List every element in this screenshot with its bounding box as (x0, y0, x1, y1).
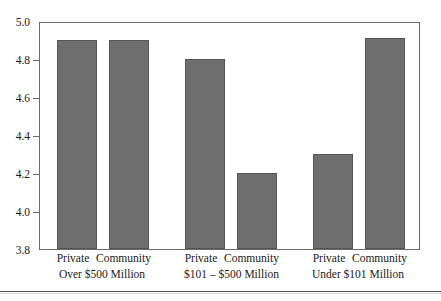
x-axis-group-title: Over $500 Million (56, 266, 148, 282)
bar (365, 38, 405, 249)
x-axis-group: PrivateCommunity$101 – $500 Million (184, 250, 276, 282)
x-axis-category-label: Community (96, 250, 148, 266)
y-axis-tick-label: 5.0 (16, 16, 30, 28)
plot-area (39, 22, 420, 250)
bar-chart-figure: 5.04.84.64.44.24.03.8 PrivateCommunityOv… (0, 0, 441, 301)
x-axis-group: PrivateCommunityUnder $101 Million (312, 250, 404, 282)
bottom-rule (0, 291, 441, 292)
x-axis-group-title: $101 – $500 Million (184, 266, 276, 282)
y-axis-tick-label: 4.0 (16, 206, 30, 218)
y-axis-tick-label: 4.2 (16, 168, 30, 180)
bar (109, 40, 149, 249)
y-axis-tick-label: 4.8 (16, 54, 30, 66)
x-axis-category-label: Private (178, 250, 224, 266)
x-axis-category-row: PrivateCommunity (184, 250, 276, 266)
x-axis: PrivateCommunityOver $500 MillionPrivate… (39, 250, 420, 295)
bar (57, 40, 97, 249)
x-axis-group: PrivateCommunityOver $500 Million (56, 250, 148, 282)
y-axis-tick-label: 4.6 (16, 92, 30, 104)
bar (313, 154, 353, 249)
x-axis-category-label: Private (50, 250, 96, 266)
bottom-rule-shadow (0, 293, 441, 294)
x-axis-category-row: PrivateCommunity (56, 250, 148, 266)
bar (185, 59, 225, 249)
bars-layer (40, 23, 419, 249)
x-axis-category-row: PrivateCommunity (312, 250, 404, 266)
x-axis-category-label: Community (352, 250, 404, 266)
x-axis-category-label: Private (306, 250, 352, 266)
y-axis-tick-label: 4.4 (16, 130, 30, 142)
bar (237, 173, 277, 249)
y-axis: 5.04.84.64.44.24.03.8 (0, 0, 39, 301)
x-axis-category-label: Community (224, 250, 276, 266)
y-axis-tick-label: 3.8 (16, 244, 30, 256)
x-axis-group-title: Under $101 Million (312, 266, 404, 282)
